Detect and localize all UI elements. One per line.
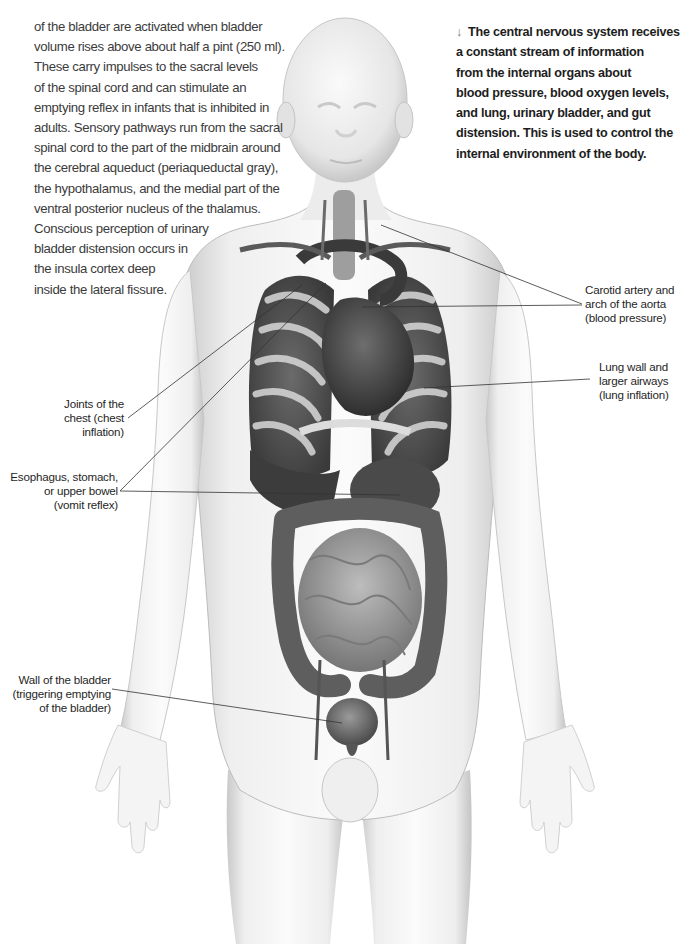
label-lung-wall: Lung wall and larger airways (lung infla…	[599, 360, 669, 402]
intro-line: ventral posterior nucleus of the thalamu…	[34, 199, 289, 219]
label-line: (blood pressure)	[585, 311, 674, 325]
caption-line: and lung, urinary bladder, and gut	[456, 103, 688, 123]
caption-line: ↓The central nervous system receives	[456, 22, 688, 42]
label-line: chest (chest	[30, 411, 124, 425]
intro-line: bladder distension occurs in	[34, 239, 289, 259]
intro-line: the cerebral aqueduct (periaqueductal gr…	[34, 158, 289, 178]
label-line: inflation)	[30, 425, 124, 439]
label-line: of the bladder)	[0, 701, 111, 715]
label-line: or upper bowel	[0, 484, 118, 498]
label-line: (vomit reflex)	[0, 498, 118, 512]
label-chest-joints: Joints of the chest (chest inflation)	[30, 397, 124, 439]
caption-text: The central nervous system receives	[468, 25, 680, 39]
intro-line: inside the lateral fissure.	[34, 280, 289, 300]
label-carotid-artery: Carotid artery and arch of the aorta (bl…	[585, 283, 674, 325]
label-line: Wall of the bladder	[0, 673, 111, 687]
intro-paragraph: of the bladder are activated when bladde…	[34, 17, 289, 300]
label-line: (triggering emptying	[0, 687, 111, 701]
arrow-down-icon: ↓	[456, 25, 462, 39]
intro-line: adults. Sensory pathways run from the sa…	[34, 118, 289, 138]
label-line: (lung inflation)	[599, 388, 669, 402]
caption-line: internal environment of the body.	[456, 144, 688, 164]
intro-line: the hypothalamus, and the medial part of…	[34, 179, 289, 199]
intro-line: Conscious perception of urinary	[34, 219, 289, 239]
figure-caption: ↓The central nervous system receives a c…	[456, 22, 688, 164]
label-line: Esophagus, stomach,	[0, 470, 118, 484]
caption-line: blood pressure, blood oxygen levels,	[456, 83, 688, 103]
label-line: Lung wall and	[599, 360, 669, 374]
label-bladder-wall: Wall of the bladder (triggering emptying…	[0, 673, 111, 715]
caption-line: from the internal organs about	[456, 63, 688, 83]
label-line: Carotid artery and	[585, 283, 674, 297]
intro-line: of the bladder are activated when bladde…	[34, 17, 289, 37]
label-line: arch of the aorta	[585, 297, 674, 311]
intro-line: volume rises above about half a pint (25…	[34, 37, 289, 57]
label-line: larger airways	[599, 374, 669, 388]
caption-line: a constant stream of information	[456, 42, 688, 62]
label-esophagus-stomach: Esophagus, stomach, or upper bowel (vomi…	[0, 470, 118, 512]
label-line: Joints of the	[30, 397, 124, 411]
intro-line: These carry impulses to the sacral level…	[34, 57, 289, 77]
intro-line: emptying reflex in infants that is inhib…	[34, 98, 289, 118]
intro-line: spinal cord to the part of the midbrain …	[34, 138, 289, 158]
caption-line: distension. This is used to control the	[456, 123, 688, 143]
intro-line: the insula cortex deep	[34, 259, 289, 279]
intro-line: of the spinal cord and can stimulate an	[34, 78, 289, 98]
